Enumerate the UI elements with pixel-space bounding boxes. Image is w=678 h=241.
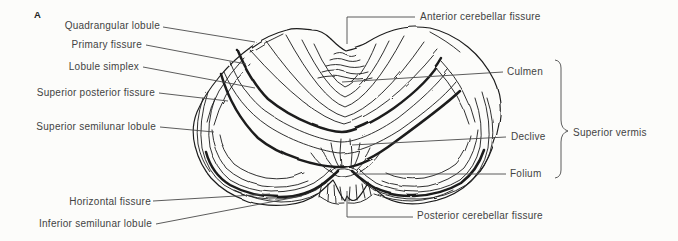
panel-label: A xyxy=(34,10,41,20)
leader-primary-fissure xyxy=(146,45,246,64)
upper-folia xyxy=(250,35,438,124)
label-superior-vermis: Superior vermis xyxy=(573,128,647,138)
leader-anterior-cerebellar-fissure xyxy=(347,17,415,44)
label-culmen: Culmen xyxy=(507,67,543,77)
label-inferior-semilunar-lobule: Inferior semilunar lobule xyxy=(39,219,152,229)
label-horizontal-fissure: Horizontal fissure xyxy=(69,197,151,207)
leader-declive xyxy=(352,137,506,145)
culmen-folia xyxy=(318,53,372,81)
leader-inferior-semilunar-lobule xyxy=(156,196,302,224)
superior-vermis-brace xyxy=(555,60,568,178)
label-quadrangular-lobule: Quadrangular lobule xyxy=(65,21,160,31)
primary-fissure-line xyxy=(238,51,442,132)
label-anterior-cerebellar-fissure: Anterior cerebellar fissure xyxy=(420,12,541,22)
label-superior-posterior-fissure: Superior posterior fissure xyxy=(37,88,155,98)
leader-culmen xyxy=(342,72,503,82)
left-hemisphere-folia xyxy=(197,92,334,199)
leader-quadrangular-lobule xyxy=(163,27,255,42)
label-superior-semilunar-lobule: Superior semilunar lobule xyxy=(36,122,156,132)
label-lobule-simplex: Lobule simplex xyxy=(69,62,139,72)
shoulder-folia xyxy=(250,32,460,52)
horizontal-fissure-line xyxy=(206,150,484,197)
leader-superior-semilunar-lobule xyxy=(160,127,214,132)
label-declive: Declive xyxy=(511,132,546,142)
label-primary-fissure: Primary fissure xyxy=(72,40,142,50)
cerebellum-figure: A Quadrangular lobule Primary fissure Lo… xyxy=(0,0,678,241)
right-hemisphere-folia xyxy=(356,92,493,199)
label-posterior-cerebellar-fissure: Posterior cerebellar fissure xyxy=(417,211,543,221)
label-folium: Folium xyxy=(510,169,542,179)
cerebellum-drawing xyxy=(193,27,500,205)
